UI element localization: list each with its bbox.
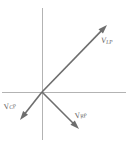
phasor-label-vrp-sub: RP	[79, 112, 87, 120]
phasor-vector-vcp	[20, 92, 42, 120]
phasor-label-vlp: VLP	[101, 36, 113, 45]
phasor-vcp-shaft	[25, 92, 42, 114]
phasor-vector-vlp	[42, 25, 107, 92]
phasor-diagram-canvas	[0, 0, 128, 147]
phasor-vlp-shaft	[42, 30, 102, 92]
phasor-label-vlp-sub: LP	[106, 39, 113, 45]
phasor-diagram-figure: VLP VCP VRP	[0, 0, 128, 147]
phasor-vrp-shaft	[42, 92, 74, 124]
phasor-vector-vrp	[42, 92, 79, 129]
phasor-label-vcp-sub: CP	[8, 103, 16, 111]
